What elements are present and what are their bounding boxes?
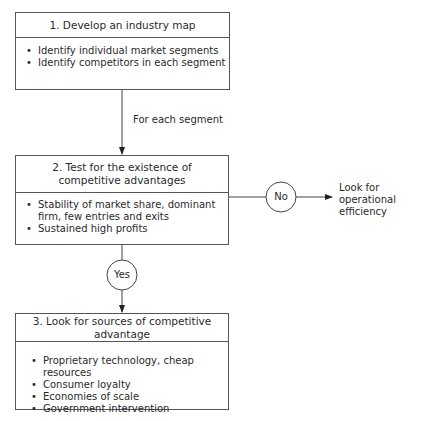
step-1-title-text: 1. Develop an industry map	[49, 19, 195, 32]
bullet-item: Government intervention	[16, 403, 228, 415]
step-2-bullets: Stability of market share, dominant firm…	[16, 193, 228, 235]
step-1-title: 1. Develop an industry map	[16, 13, 229, 38]
bullet-item: Proprietary technology, cheap resources	[16, 355, 228, 379]
step-2-box: 2. Test for the existence of competitive…	[15, 155, 229, 245]
bullet-item: Sustained high profits	[16, 223, 220, 235]
bullet-item: Stability of market share, dominant firm…	[16, 199, 220, 223]
step-3-title: 3. Look for sources of competitive advan…	[16, 314, 228, 342]
bullet-item: Identify individual market segments	[16, 45, 229, 57]
yes-label: Yes	[107, 269, 137, 281]
step-2-title-text: 2. Test for the existence of competitive…	[34, 161, 210, 187]
step-2-title: 2. Test for the existence of competitive…	[16, 156, 228, 193]
no-label: No	[266, 191, 296, 203]
for-each-segment-label: For each segment	[133, 114, 223, 126]
step-3-box: 3. Look for sources of competitive advan…	[15, 313, 229, 410]
bullet-item: Consumer loyalty	[16, 379, 228, 391]
bullet-item: Identify competitors in each segment	[16, 57, 229, 69]
step-3-title-text: 3. Look for sources of competitive advan…	[22, 315, 222, 341]
no-outcome-label: Look for operational efficiency	[339, 182, 429, 218]
step-1-box: 1. Develop an industry map Identify indi…	[15, 12, 230, 90]
bullet-item: Economies of scale	[16, 391, 228, 403]
step-3-bullets: Proprietary technology, cheap resources …	[16, 342, 228, 415]
step-1-bullets: Identify individual market segments Iden…	[16, 38, 229, 69]
